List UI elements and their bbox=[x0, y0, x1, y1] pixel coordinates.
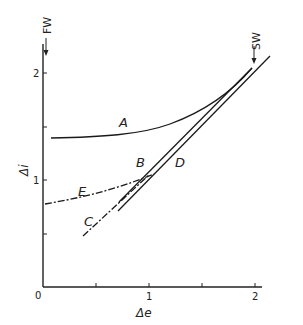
sw-arrow-icon bbox=[252, 58, 257, 64]
y-axis-title: Δi bbox=[17, 164, 31, 177]
x-tick-label-1: 1 bbox=[146, 291, 152, 302]
curve-B bbox=[119, 68, 252, 202]
y-tick-label-2: 2 bbox=[33, 68, 39, 79]
curve-E bbox=[45, 174, 154, 204]
fw-arrow-icon bbox=[44, 50, 49, 56]
label-D: D bbox=[175, 155, 185, 170]
curve-A bbox=[51, 68, 252, 138]
label-E: E bbox=[78, 184, 87, 199]
label-B: B bbox=[136, 155, 145, 170]
sw-label: SW bbox=[250, 32, 263, 50]
label-C: C bbox=[84, 214, 94, 229]
fw-label: FW bbox=[41, 17, 54, 34]
x-tick-label-0: 0 bbox=[35, 290, 41, 301]
x-tick-label-2: 2 bbox=[252, 291, 258, 302]
label-A: A bbox=[118, 115, 128, 130]
x-axis-title: Δe bbox=[135, 306, 152, 320]
chart-canvas: 0 1 2 1 2 Δe Δi FW SW A B C D E bbox=[0, 0, 303, 325]
y-tick-label-1: 1 bbox=[33, 175, 39, 186]
curve-D bbox=[118, 56, 270, 211]
